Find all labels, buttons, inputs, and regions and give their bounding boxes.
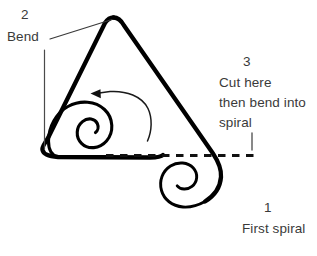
first-spiral-path bbox=[161, 163, 205, 207]
counterclockwise-arrow-curve bbox=[98, 91, 152, 141]
cut-instruction-line-3: spiral bbox=[219, 115, 252, 131]
inner-spiral-path bbox=[49, 102, 112, 157]
first-spiral-number-label: 1 bbox=[264, 200, 272, 216]
bend-text-label: Bend bbox=[7, 29, 39, 45]
bent-wire-path bbox=[42, 18, 163, 158]
cut-number-label: 3 bbox=[243, 54, 251, 70]
cut-instruction-line-1: Cut here bbox=[219, 75, 272, 91]
cut-instruction-line-2: then bend into bbox=[219, 95, 306, 111]
counterclockwise-arrow-head bbox=[91, 89, 101, 98]
wire-bending-diagram: 2 Bend 3 Cut here then bend into spiral … bbox=[0, 0, 317, 256]
diagram-canvas bbox=[0, 0, 317, 256]
first-spiral-text-label: First spiral bbox=[242, 221, 305, 237]
bent-wire-right-leg bbox=[114, 18, 222, 202]
bend-number-label: 2 bbox=[21, 7, 29, 23]
